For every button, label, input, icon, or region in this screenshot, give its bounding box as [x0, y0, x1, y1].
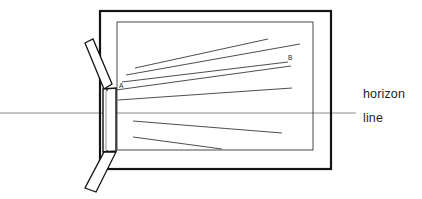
ray-l2: [133, 137, 222, 149]
ray-l1: [133, 121, 282, 133]
ray-u2: [126, 44, 300, 75]
shutter-pane-shape: [103, 88, 116, 152]
hinge-pivot-bottom-dot: [106, 150, 108, 152]
horizon-line-label: line: [363, 112, 383, 125]
ray-fan-lower: [133, 121, 282, 149]
perspective-diagram-svg: A B: [0, 0, 422, 199]
ray-u5: [118, 88, 292, 100]
figure-canvas: A B horizon line: [0, 0, 422, 199]
ray-fan-upper: [116, 39, 300, 100]
point-b-label: B: [288, 54, 292, 61]
ray-u4: [116, 66, 291, 90]
hinge-pivot-top-dot: [106, 89, 108, 91]
point-a-label: A: [119, 82, 124, 89]
horizon-label: horizon: [363, 88, 405, 101]
outer-frame-rect: [100, 11, 331, 169]
lower-flap-shape: [85, 152, 116, 192]
upper-flap-shape: [85, 39, 112, 89]
